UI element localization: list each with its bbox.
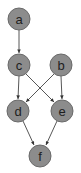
node-label-b: b xyxy=(57,58,64,73)
edge-e-f xyxy=(46,121,57,145)
node-e: e xyxy=(51,100,73,122)
node-c: c xyxy=(8,54,30,76)
node-d: d xyxy=(7,100,29,122)
node-label-e: e xyxy=(58,104,65,119)
node-label-a: a xyxy=(15,12,23,27)
node-label-d: d xyxy=(14,104,21,119)
edge-d-f xyxy=(23,121,34,145)
node-b: b xyxy=(50,54,72,76)
graph-canvas: a c b d e f xyxy=(0,0,81,173)
edge-c-d xyxy=(18,76,19,99)
node-a: a xyxy=(8,8,30,30)
node-f: f xyxy=(29,145,51,167)
node-label-c: c xyxy=(16,58,23,73)
edge-b-e xyxy=(61,76,62,99)
node-label-f: f xyxy=(38,149,42,164)
